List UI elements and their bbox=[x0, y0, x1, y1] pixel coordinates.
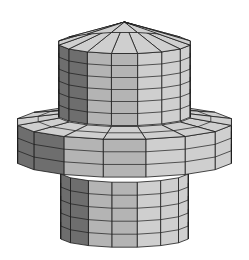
mesh-face bbox=[146, 137, 185, 178]
mesh-solid-figure bbox=[0, 0, 249, 260]
mesh-face bbox=[161, 178, 179, 246]
mesh-face bbox=[34, 132, 64, 175]
mesh-face bbox=[137, 181, 160, 248]
cone-cap bbox=[59, 22, 190, 54]
mesh-face bbox=[71, 178, 89, 246]
lower-cylinder bbox=[61, 170, 189, 247]
mesh-face bbox=[215, 125, 231, 169]
mesh-face bbox=[64, 137, 103, 178]
mesh-face bbox=[112, 182, 137, 247]
mesh-face bbox=[103, 139, 146, 177]
mesh-face bbox=[179, 174, 189, 243]
mesh-face bbox=[185, 132, 215, 175]
mesh-face bbox=[88, 181, 111, 248]
mesh-face bbox=[61, 174, 71, 243]
mesh-face bbox=[18, 125, 34, 169]
